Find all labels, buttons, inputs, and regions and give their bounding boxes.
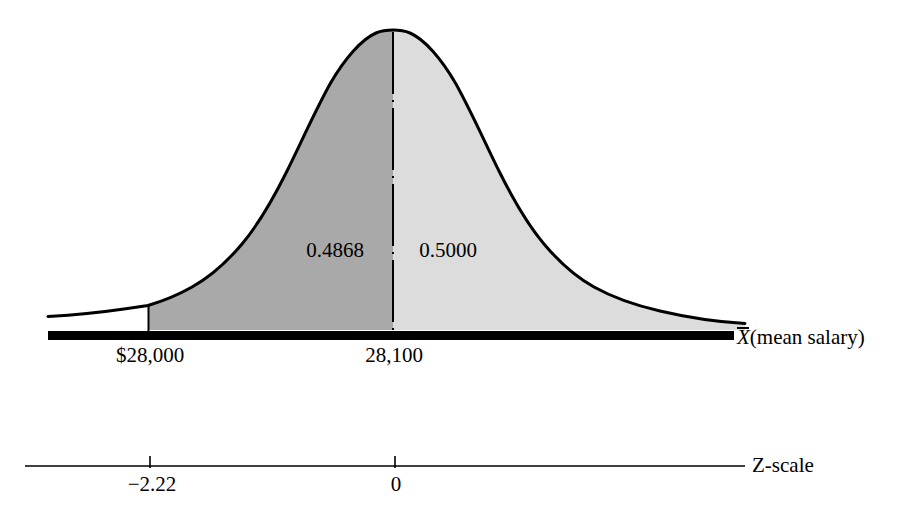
normal-distribution-figure: 0.4868 0.5000 $28,000 28,100 X(mean sala…: [0, 0, 918, 525]
x-bar-overline-icon: [737, 327, 749, 329]
x-axis-name: X(mean salary): [737, 327, 865, 348]
x-axis-tick-label-28000: $28,000: [116, 345, 184, 366]
right-region-probability-label: 0.5000: [419, 240, 477, 261]
x-axis-tick-label-28100: 28,100: [365, 345, 423, 366]
x-bar-letter: X: [737, 325, 750, 349]
x-axis-baseline: [48, 331, 734, 340]
left-shaded-region: [148, 30, 393, 330]
x-axis-name-text: (mean salary): [750, 325, 865, 349]
right-shaded-region: [393, 30, 745, 330]
z-axis-tick-label-minus222: −2.22: [128, 474, 177, 495]
left-region-probability-label: 0.4868: [306, 240, 364, 261]
z-axis-tick-label-zero: 0: [391, 474, 402, 495]
x-bar-symbol: X: [737, 327, 750, 348]
distribution-curve-graphic: [0, 0, 918, 525]
z-axis-name: Z-scale: [752, 455, 814, 476]
